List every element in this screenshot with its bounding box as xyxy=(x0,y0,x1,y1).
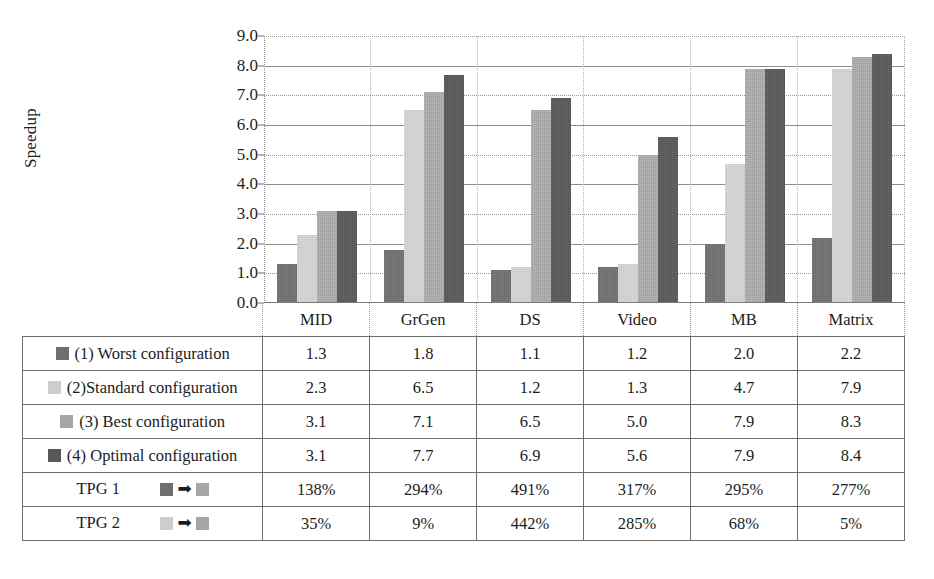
legend-swatch-icon xyxy=(48,449,61,462)
y-axis-tick-label: 9.0 xyxy=(237,26,258,46)
cell-grgen-row4: 7.7 xyxy=(370,439,477,473)
table-row: (4) Optimal configuration3.17.76.95.67.9… xyxy=(23,439,905,473)
bar-group-mid xyxy=(264,36,371,303)
bar-video-series4 xyxy=(658,137,678,303)
y-axis-tick-label: 3.0 xyxy=(237,204,258,224)
column-header-grgen: GrGen xyxy=(370,303,477,337)
data-table: MIDGrGenDSVideoMBMatrix(1) Worst configu… xyxy=(22,303,905,541)
bar-group-matrix xyxy=(798,36,905,303)
legend-swatch-icon xyxy=(48,381,61,394)
bar-mb-series2 xyxy=(725,164,745,303)
cell-video-row3: 5.0 xyxy=(584,405,691,439)
tpg-cell-mid-row1: 138% xyxy=(263,473,370,507)
tpg-cell-matrix-row1: 277% xyxy=(797,473,904,507)
tpg-label-cell-1: TPG 1➡ xyxy=(23,473,263,507)
legend-row-2: (2)Standard configuration xyxy=(23,371,263,405)
table-row: (1) Worst configuration1.31.81.11.22.02.… xyxy=(23,337,905,371)
tpg-row: TPG 2➡35%9%442%285%68%5% xyxy=(23,507,905,541)
bar-matrix-series4 xyxy=(872,54,892,303)
arrow-right-icon: ➡ xyxy=(177,514,191,531)
cell-mb-row2: 4.7 xyxy=(691,371,798,405)
bar-grgen-series4 xyxy=(444,75,464,303)
column-header-mb: MB xyxy=(691,303,798,337)
cell-grgen-row1: 1.8 xyxy=(370,337,477,371)
cell-ds-row2: 1.2 xyxy=(477,371,584,405)
y-axis-tick-label: 5.0 xyxy=(237,145,258,165)
bar-video-series2 xyxy=(618,264,638,303)
legend-label: (3) Best configuration xyxy=(79,412,225,431)
table-header-corner xyxy=(23,303,263,337)
y-axis-tick-label: 6.0 xyxy=(237,115,258,135)
bar-mb-series1 xyxy=(705,244,725,303)
legend-row-4: (4) Optimal configuration xyxy=(23,439,263,473)
table-row: (3) Best configuration3.17.16.55.07.98.3 xyxy=(23,405,905,439)
bar-matrix-series3 xyxy=(852,57,872,303)
cell-mb-row3: 7.9 xyxy=(691,405,798,439)
bar-series-container xyxy=(264,36,905,303)
tpg-to-swatch-icon xyxy=(196,483,209,496)
table-row: (2)Standard configuration2.36.51.21.34.7… xyxy=(23,371,905,405)
tpg-from-swatch-icon xyxy=(160,517,173,530)
tpg-to-swatch-icon xyxy=(196,517,209,530)
legend-swatch-icon xyxy=(56,347,69,360)
bar-group-video xyxy=(584,36,691,303)
legend-label: (2)Standard configuration xyxy=(67,378,238,397)
cell-ds-row4: 6.9 xyxy=(477,439,584,473)
figure-bar-chart-with-data-table: Speedup 9.08.07.06.05.04.03.02.01.00.0 M… xyxy=(0,0,934,579)
bar-group-mb xyxy=(691,36,798,303)
bar-matrix-series1 xyxy=(812,238,832,303)
cell-video-row2: 1.3 xyxy=(584,371,691,405)
tpg-transition: ➡ xyxy=(160,514,208,534)
bar-video-series3 xyxy=(638,155,658,303)
tpg-label: TPG 2 xyxy=(76,513,134,533)
cell-mid-row2: 2.3 xyxy=(263,371,370,405)
bar-mb-series3 xyxy=(745,69,765,303)
column-header-matrix: Matrix xyxy=(797,303,904,337)
tpg-cell-grgen-row1: 294% xyxy=(370,473,477,507)
table-body: MIDGrGenDSVideoMBMatrix(1) Worst configu… xyxy=(23,303,905,541)
bar-matrix-series2 xyxy=(832,69,852,303)
bar-group-grgen xyxy=(371,36,478,303)
bar-video-series1 xyxy=(598,267,618,303)
chart-area: Speedup 9.08.07.06.05.04.03.02.01.00.0 xyxy=(0,0,934,318)
tpg-cell-mb-row1: 295% xyxy=(691,473,798,507)
arrow-right-icon: ➡ xyxy=(177,480,191,497)
tpg-cell-video-row1: 317% xyxy=(584,473,691,507)
cell-mid-row3: 3.1 xyxy=(263,405,370,439)
y-axis-tick-label: 8.0 xyxy=(237,56,258,76)
column-header-video: Video xyxy=(584,303,691,337)
cell-matrix-row3: 8.3 xyxy=(797,405,904,439)
cell-mid-row1: 1.3 xyxy=(263,337,370,371)
tpg-transition: ➡ xyxy=(160,480,208,500)
cell-mb-row1: 2.0 xyxy=(691,337,798,371)
column-header-ds: DS xyxy=(477,303,584,337)
tpg-cell-video-row2: 285% xyxy=(584,507,691,541)
column-header-mid: MID xyxy=(263,303,370,337)
tpg-label-cell-2: TPG 2➡ xyxy=(23,507,263,541)
cell-mid-row4: 3.1 xyxy=(263,439,370,473)
cell-video-row1: 1.2 xyxy=(584,337,691,371)
bar-grgen-series1 xyxy=(384,250,404,303)
tpg-cell-mb-row2: 68% xyxy=(691,507,798,541)
tpg-cell-ds-row2: 442% xyxy=(477,507,584,541)
bar-mid-series1 xyxy=(277,264,297,303)
tpg-cell-matrix-row2: 5% xyxy=(797,507,904,541)
cell-grgen-row2: 6.5 xyxy=(370,371,477,405)
tpg-from-swatch-icon xyxy=(160,483,173,496)
bar-ds-series2 xyxy=(511,267,531,303)
tpg-cell-grgen-row2: 9% xyxy=(370,507,477,541)
cell-mb-row4: 7.9 xyxy=(691,439,798,473)
bar-ds-series1 xyxy=(491,270,511,303)
cell-matrix-row4: 8.4 xyxy=(797,439,904,473)
legend-row-1: (1) Worst configuration xyxy=(23,337,263,371)
tpg-cell-ds-row1: 491% xyxy=(477,473,584,507)
tpg-row: TPG 1➡138%294%491%317%295%277% xyxy=(23,473,905,507)
legend-row-3: (3) Best configuration xyxy=(23,405,263,439)
y-axis-tick-label: 2.0 xyxy=(237,234,258,254)
bar-mid-series4 xyxy=(337,211,357,303)
table-header-row: MIDGrGenDSVideoMBMatrix xyxy=(23,303,905,337)
bar-mid-series2 xyxy=(297,235,317,303)
legend-swatch-icon xyxy=(60,415,73,428)
bar-grgen-series2 xyxy=(404,110,424,303)
cell-matrix-row2: 7.9 xyxy=(797,371,904,405)
